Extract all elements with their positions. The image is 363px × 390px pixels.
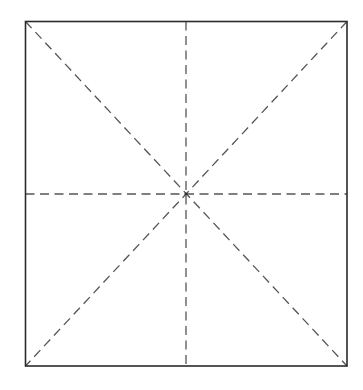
center-point	[184, 192, 187, 195]
diagram-background	[0, 0, 363, 390]
geometry-diagram: Square with dashed symmetry axes A squar…	[0, 0, 363, 390]
figure-canvas: Square with dashed symmetry axes A squar…	[0, 0, 363, 390]
